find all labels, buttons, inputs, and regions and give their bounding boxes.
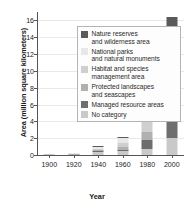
plot-area: 0246810121416 190019201940196019802000 N… <box>37 12 184 155</box>
x-tick-mark <box>49 155 50 158</box>
x-axis-line <box>37 155 184 156</box>
y-tick-label: 16 <box>12 17 34 24</box>
gridline <box>37 138 184 139</box>
y-tick-label: 8 <box>12 84 34 91</box>
x-tick-label: 1980 <box>139 161 155 168</box>
legend-swatch-icon <box>81 101 88 108</box>
x-tick-label: 1920 <box>66 161 82 168</box>
bar-segment <box>117 150 128 151</box>
legend-item-label: Protected landscapesand seascapes <box>92 83 154 98</box>
x-tick-label: 2000 <box>164 161 180 168</box>
bar-segment <box>93 149 104 150</box>
legend-swatch-icon <box>81 84 88 91</box>
legend-item-label: No category <box>92 111 127 119</box>
legend-item-label: Managed resource areas <box>92 101 164 109</box>
y-tick-label: 14 <box>12 34 34 41</box>
legend-item: Managed resource areas <box>81 101 177 109</box>
legend-item: Habitat and speciesmanagement area <box>81 65 177 80</box>
y-tick-label: 10 <box>12 67 34 74</box>
x-tick-label: 1900 <box>41 161 57 168</box>
y-tick-label: 2 <box>12 135 34 142</box>
legend-item: Nature reservesand wilderness area <box>81 30 177 45</box>
y-axis-line <box>37 12 38 155</box>
legend-swatch-icon <box>81 48 88 55</box>
table-row <box>93 146 104 155</box>
x-tick-mark <box>74 155 75 158</box>
legend-swatch-icon <box>81 111 88 118</box>
legend-swatch-icon <box>81 66 88 73</box>
bar-segment <box>93 147 104 149</box>
bar-segment <box>142 132 153 140</box>
legend-item: No category <box>81 111 177 119</box>
x-tick-mark <box>98 155 99 158</box>
legend-item-label: Nature reservesand wilderness area <box>92 30 150 45</box>
bar-segment <box>117 137 128 138</box>
bar-segment <box>166 138 177 155</box>
bar-segment <box>93 151 104 152</box>
x-tick-label: 1960 <box>115 161 131 168</box>
bar-segment <box>117 143 128 147</box>
x-tick-mark <box>172 155 173 158</box>
x-tick-label: 1940 <box>90 161 106 168</box>
y-tick-label: 6 <box>12 101 34 108</box>
x-axis-title: Year <box>0 192 194 201</box>
legend-swatch-icon <box>81 31 88 38</box>
gridline <box>37 20 184 21</box>
legend-item: Protected landscapesand seascapes <box>81 83 177 98</box>
y-tick-label: 12 <box>12 51 34 58</box>
table-row <box>117 137 128 155</box>
legend-item-label: Habitat and speciesmanagement area <box>92 65 149 80</box>
legend: Nature reservesand wilderness areaNation… <box>77 26 181 122</box>
y-tick-label: 0 <box>12 152 34 159</box>
x-tick-mark <box>123 155 124 158</box>
legend-item: National parksand natural monuments <box>81 48 177 63</box>
x-tick-mark <box>147 155 148 158</box>
bar-segment <box>142 140 153 149</box>
legend-item-label: National parksand natural monuments <box>92 48 160 63</box>
bar-segment <box>117 147 128 150</box>
bar-segment <box>117 138 128 143</box>
y-tick-label: 4 <box>12 118 34 125</box>
bar-segment <box>93 146 104 147</box>
bar-segment <box>93 150 104 151</box>
chart-figure: Area (million square kilometers) 0246810… <box>0 0 194 211</box>
